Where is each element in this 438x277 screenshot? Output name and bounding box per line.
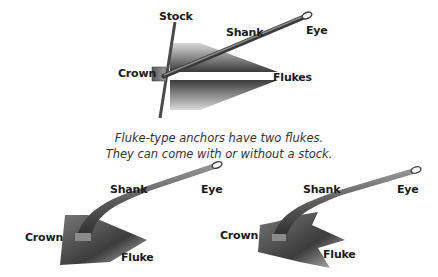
caption-line-2: They can come with or without a stock.: [0, 146, 438, 162]
label-shank: Shank: [226, 26, 263, 39]
label-stock: Stock: [159, 10, 193, 23]
label-eye: Eye: [306, 24, 328, 37]
caption-line-1: Fluke-type anchors have two flukes.: [0, 130, 438, 146]
label-right-crown: Crown: [220, 229, 258, 242]
label-left-fluke: Fluke: [121, 251, 154, 264]
right-eye-ring: [410, 166, 421, 175]
label-right-shank: Shank: [303, 183, 340, 196]
label-right-eye: Eye: [397, 183, 419, 196]
left-anchor: [60, 160, 223, 265]
label-right-fluke: Fluke: [323, 248, 356, 261]
label-flukes: Flukes: [273, 71, 312, 84]
label-left-eye: Eye: [201, 183, 223, 196]
label-left-shank: Shank: [110, 183, 147, 196]
eye-ring: [301, 11, 313, 20]
lower-fluke: [170, 80, 278, 110]
label-left-crown: Crown: [25, 231, 63, 244]
label-crown: Crown: [118, 67, 156, 80]
